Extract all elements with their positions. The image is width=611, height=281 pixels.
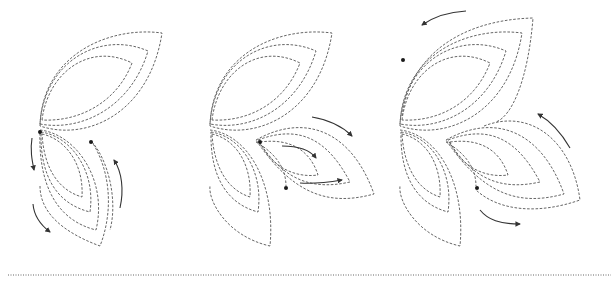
start-dot (38, 130, 42, 134)
right-leaf (446, 121, 580, 209)
right-leaf (256, 128, 374, 199)
stitch-dot (475, 186, 479, 190)
panel-step-3 (400, 11, 580, 246)
arrow-right-inner (282, 146, 316, 158)
top-leaf (40, 32, 162, 130)
arrow-down-left-lower (33, 204, 50, 232)
arrow-right-outer (312, 117, 352, 136)
top-leaf (210, 32, 332, 130)
quilting-diagram (0, 0, 611, 281)
arrow-down-left-upper (31, 138, 34, 170)
stitch-dot (284, 186, 288, 190)
start-dot (258, 140, 262, 144)
bottom-left-leaf (40, 130, 113, 246)
arrow-up-right (114, 160, 122, 208)
top-leaf (400, 18, 533, 130)
arrow-bottom-right (480, 210, 520, 224)
arrow-top-left-counterclockwise (422, 11, 466, 25)
stitch-dot (89, 140, 93, 144)
panel-step-1 (31, 32, 162, 246)
panel-step-2 (210, 32, 374, 246)
start-dot (401, 58, 405, 62)
